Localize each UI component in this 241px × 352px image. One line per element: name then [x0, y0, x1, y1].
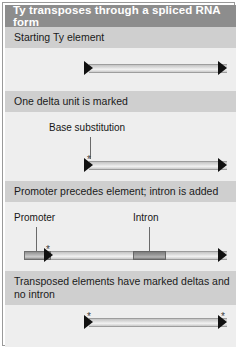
delta-left-triangle-marked: [84, 158, 93, 172]
panel-1-body: [5, 48, 236, 91]
intron-label: Intron: [133, 212, 159, 223]
intron-block: [133, 251, 166, 260]
panel-1-header: Starting Ty element: [5, 27, 236, 48]
ty-element-bar: [89, 318, 227, 327]
figure-inner: Ty transposes through a spliced RNA form…: [5, 5, 236, 347]
delta-right-triangle: [218, 61, 227, 75]
promoter-label: Promoter: [14, 212, 55, 223]
panel-4-body: * *: [5, 305, 236, 347]
figure-root: Ty transposes through a spliced RNA form…: [0, 0, 241, 352]
figure-title: Ty transposes through a spliced RNA form: [5, 5, 236, 27]
promoter-leader-line: [36, 227, 37, 252]
panel-2-header: One delta unit is marked: [5, 91, 236, 112]
panel-2-body: Base substitution *: [5, 112, 236, 181]
ty-element-bar: [89, 64, 227, 73]
intron-leader-line: [149, 227, 150, 252]
panel-transposed-elements: Transposed elements have marked deltas a…: [5, 271, 236, 347]
panel-3-header: Promoter precedes element; intron is add…: [5, 181, 236, 202]
delta-right-triangle-marked: [218, 315, 227, 329]
panel-one-delta-unit-is-marked: One delta unit is marked Base substituti…: [5, 91, 236, 181]
delta-left-triangle-marked: [84, 315, 93, 329]
base-substitution-label: Base substitution: [49, 122, 125, 133]
panel-promoter-precedes-element: Promoter precedes element; intron is add…: [5, 181, 236, 271]
panel-starting-ty-element: Starting Ty element: [5, 27, 236, 91]
ty-element-bar: [89, 161, 227, 170]
delta-left-triangle-marked: [44, 248, 53, 262]
delta-right-triangle: [218, 158, 227, 172]
panel-3-body: Promoter Intron *: [5, 202, 236, 271]
delta-left-triangle: [84, 61, 93, 75]
delta-right-triangle: [218, 248, 227, 262]
panel-4-header: Transposed elements have marked deltas a…: [5, 271, 236, 305]
